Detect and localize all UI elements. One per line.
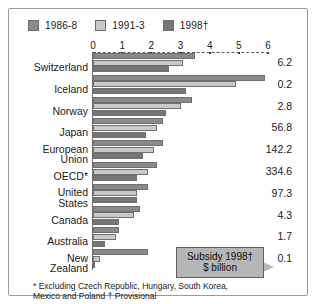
callout-box: Subsidy 1998† $ billion — [176, 247, 264, 278]
value-label: 142.2 — [266, 144, 292, 155]
footnote-line-2: Mexico and Poland † Provisional — [33, 291, 293, 301]
bar — [93, 162, 157, 168]
bar — [93, 190, 137, 196]
category-label: European Union — [42, 144, 88, 165]
category-labels: SwitzerlandIcelandNorwayJapanEuropean Un… — [14, 52, 88, 270]
category-label: United States — [58, 187, 88, 208]
x-tick-label: 5 — [236, 40, 242, 51]
category-label: Iceland — [54, 84, 88, 95]
bar — [93, 103, 181, 109]
bar — [93, 81, 236, 87]
category-label: OECD* — [54, 171, 88, 182]
x-tick-label: 1 — [119, 40, 125, 51]
category-label: New Zealand — [50, 253, 88, 274]
legend-label-1991-3: 1991-3 — [112, 20, 144, 31]
x-tick-label: 2 — [149, 40, 155, 51]
chart-legend: 1986-8 1991-3 1998† — [28, 18, 209, 32]
value-label: 6.2 — [277, 57, 292, 68]
bar — [93, 227, 119, 233]
bar — [93, 147, 154, 153]
value-label: 1.7 — [277, 231, 292, 242]
bar — [93, 53, 195, 59]
value-label: 2.8 — [277, 101, 292, 112]
legend-label-1998: 1998† — [180, 20, 209, 31]
bar — [93, 241, 105, 247]
value-label: 56.8 — [272, 122, 292, 133]
bar — [93, 118, 163, 124]
legend-swatch-1986-8 — [28, 20, 39, 31]
bar — [93, 60, 183, 66]
bar — [93, 219, 119, 225]
bar — [93, 132, 146, 138]
footnote-line-1: * Excluding Czech Republic, Hungary, Sou… — [33, 281, 293, 291]
bar — [93, 97, 192, 103]
category-label: Japan — [59, 127, 88, 138]
value-label: 0.1 — [277, 253, 292, 264]
value-labels: 6.20.22.856.8142.2334.697.34.31.70.1 — [236, 52, 292, 270]
category-label: Switzerland — [34, 62, 88, 73]
bar — [93, 256, 100, 262]
category-label: Norway — [52, 106, 88, 117]
legend-swatch-1998 — [163, 20, 174, 31]
bar — [93, 184, 148, 190]
legend-item-1991-3: 1991-3 — [95, 20, 144, 31]
callout-pointer — [263, 262, 274, 272]
legend-label-1986-8: 1986-8 — [45, 20, 77, 31]
value-label: 4.3 — [277, 210, 292, 221]
bar — [93, 66, 169, 72]
bar — [93, 110, 166, 116]
category-label: Canada — [51, 215, 88, 226]
x-tick-label: 6 — [265, 40, 271, 51]
bar — [93, 153, 143, 159]
legend-item-1986-8: 1986-8 — [28, 20, 77, 31]
bar — [93, 169, 148, 175]
callout-line-2: $ billion — [181, 262, 259, 273]
chart-figure: 1986-8 1991-3 1998† 0123456 SwitzerlandI… — [0, 0, 316, 304]
value-label: 0.2 — [277, 79, 292, 90]
x-axis: 0123456 — [93, 40, 268, 52]
value-label: 334.6 — [266, 166, 292, 177]
category-label: Australia — [47, 236, 88, 247]
x-tick-label: 4 — [207, 40, 213, 51]
bar — [93, 125, 157, 131]
value-label: 97.3 — [272, 188, 292, 199]
bar — [93, 175, 137, 181]
bar — [93, 234, 116, 240]
chart-footnote: * Excluding Czech Republic, Hungary, Sou… — [33, 281, 293, 301]
legend-item-1998: 1998† — [163, 20, 209, 31]
legend-swatch-1991-3 — [95, 20, 106, 31]
bar — [93, 206, 140, 212]
bar — [93, 249, 148, 255]
x-tick-label: 0 — [90, 40, 96, 51]
bar — [93, 212, 134, 218]
bar — [93, 197, 137, 203]
bar — [93, 262, 95, 268]
bar — [93, 140, 163, 146]
callout-line-1: Subsidy 1998† — [181, 251, 259, 262]
x-tick-label: 3 — [178, 40, 184, 51]
bar — [93, 88, 186, 94]
